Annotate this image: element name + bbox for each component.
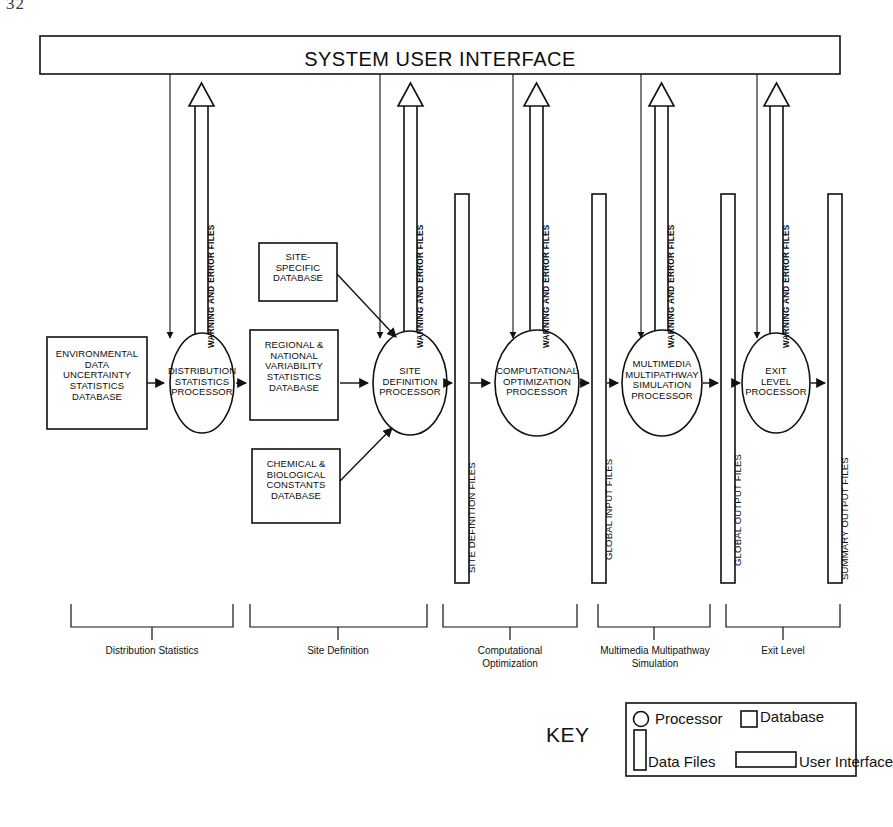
proc-line: PROCESSOR [479,387,595,398]
processor-label-exit-level: EXIT LEVEL PROCESSOR [722,366,830,398]
processor-label-computational-optimization: COMPUTATIONAL OPTIMIZATION PROCESSOR [479,366,595,398]
key-label-database: Database [760,708,824,725]
phase-line: Distribution Statistics [72,645,232,658]
database-label-site-specific: SITE- SPECIFIC DATABASE [259,252,337,284]
key-label-user-interface: User Interface [799,753,893,770]
key-shape-database [741,711,757,727]
key-label-processor: Processor [655,710,723,727]
proc-line: PROCESSOR [604,391,720,402]
phase-line: Optimization [450,658,570,671]
key-label-data-files: Data Files [648,753,716,770]
processor-label-multimedia-multipathway: MULTIMEDIA MULTIPATHWAY SIMULATION PROCE… [604,359,720,402]
database-label-regional-national: REGIONAL & NATIONAL VARIABILITY STATISTI… [250,340,338,393]
phase-label-exit-level: Exit Level [733,645,833,658]
phase-label-computational-optimization: Computational Optimization [450,645,570,670]
phase-line: Simulation [584,658,726,671]
proc-line: PROCESSOR [360,387,460,398]
system-user-interface-title: SYSTEM USER INTERFACE [40,48,840,70]
key-shape-processor [634,712,649,727]
database-label-chemical-biological: CHEMICAL & BIOLOGICAL CONSTANTS DATABASE [252,459,340,502]
phase-label-multimedia-multipathway: Multimedia Multipathway Simulation [584,645,726,670]
db-line: DATABASE [259,273,337,284]
processor-label-distribution-statistics: DISTRIBUTION STATISTICS PROCESSOR [147,366,257,398]
processor-label-site-definition: SITE DEFINITION PROCESSOR [360,366,460,398]
data-file-label-global-input-files: GLOBAL INPUT FILES [603,459,614,560]
phase-line: Computational [450,645,570,658]
phase-label-site-definition: Site Definition [278,645,398,658]
db-line: DATABASE [47,392,147,403]
phase-line: Site Definition [278,645,398,658]
db-line: STATISTICS [47,381,147,392]
db-line: DATABASE [250,383,338,394]
phase-line: Exit Level [733,645,833,658]
warning-error-files-label-3: WARNING AND ERROR FILES [542,225,551,349]
warning-error-files-label-5: WARNING AND ERROR FILES [782,225,791,349]
phase-label-distribution-statistics: Distribution Statistics [72,645,232,658]
proc-line: PROCESSOR [722,387,830,398]
warning-error-files-label-4: WARNING AND ERROR FILES [667,225,676,349]
db-line: DATABASE [252,491,340,502]
proc-line: PROCESSOR [147,387,257,398]
data-file-label-summary-output-files: SUMMARY OUTPUT FILES [839,457,850,580]
warning-error-files-label-1: WARNING AND ERROR FILES [207,225,216,349]
key-title: KEY [546,723,590,747]
data-file-label-site-definition-files: SITE DEFINITION FILES [466,462,477,573]
database-label-env-data-uncertainty: ENVIRONMENTAL DATA UNCERTAINTY STATISTIC… [47,349,147,402]
data-file-label-global-output-files: GLOBAL OUTPUT FILES [732,454,743,566]
warning-error-files-label-2: WARNING AND ERROR FILES [416,225,425,349]
key-shape-user-interface [736,752,796,767]
key-shape-data-files [634,730,646,770]
db-line: STATISTICS [250,372,338,383]
phase-line: Multimedia Multipathway [584,645,726,658]
